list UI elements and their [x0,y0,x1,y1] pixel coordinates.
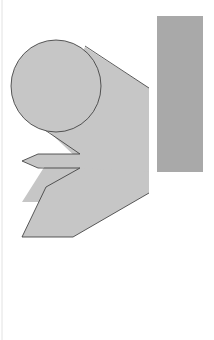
solar-heat-circle [11,40,101,132]
solar-heat-diagram [0,0,214,340]
